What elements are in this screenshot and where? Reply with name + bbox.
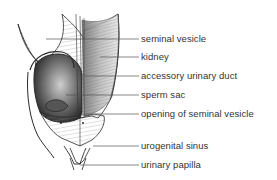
sperm-sac-cavity: [34, 54, 82, 122]
label-seminal-vesicle: seminal vesicle: [141, 34, 206, 44]
urinary-papilla: [64, 146, 90, 170]
label-kidney: kidney: [141, 52, 169, 62]
anatomical-drawing: [0, 0, 277, 180]
label-accessory-urinary-duct: accessory urinary duct: [141, 71, 237, 81]
label-urogenital-sinus: urogenital sinus: [141, 141, 208, 151]
label-urinary-papilla: urinary papilla: [141, 160, 201, 170]
urogenital-sinus: [40, 112, 104, 146]
label-sperm-sac: sperm sac: [141, 90, 185, 100]
label-opening-of-seminal-vesicle: opening of seminal vesicle: [141, 109, 254, 119]
diagram-canvas: seminal vesicle kidney accessory urinary…: [0, 0, 277, 180]
